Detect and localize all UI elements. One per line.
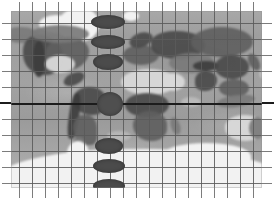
tick-left	[2, 183, 11, 184]
ellipse-marker[interactable]	[91, 35, 125, 49]
tick-top	[97, 2, 98, 11]
meridian-line	[175, 11, 176, 188]
ellipse-marker[interactable]	[95, 138, 123, 154]
tick-left	[2, 55, 11, 56]
parallel-line	[11, 167, 262, 168]
meridian-line	[188, 11, 189, 188]
tick-left	[2, 167, 11, 168]
parallel-line	[11, 55, 262, 56]
tick-bottom	[136, 188, 137, 198]
tick-right	[262, 87, 272, 88]
tick-left	[2, 23, 11, 24]
figure-root	[0, 0, 279, 205]
meridian-line	[240, 11, 241, 188]
tick-bottom	[162, 188, 163, 198]
tick-top	[110, 2, 111, 11]
meridian-line	[227, 11, 228, 188]
ellipse-marker[interactable]	[97, 92, 123, 116]
tick-bottom	[45, 188, 46, 198]
tick-top	[58, 2, 59, 11]
tick-bottom	[175, 188, 176, 198]
tick-bottom	[201, 188, 202, 198]
ellipse-marker[interactable]	[93, 159, 125, 173]
tick-top	[227, 2, 228, 11]
tick-right	[262, 135, 272, 136]
meridian-line	[19, 11, 20, 188]
tick-top	[214, 2, 215, 11]
tick-top	[123, 2, 124, 11]
ellipse-marker[interactable]	[93, 179, 125, 188]
graticule	[11, 11, 262, 188]
tick-top	[45, 2, 46, 11]
tick-right	[262, 167, 272, 168]
tick-left	[2, 135, 11, 136]
meridian-line	[214, 11, 215, 188]
tick-top	[162, 2, 163, 11]
tick-top	[240, 2, 241, 11]
tick-right	[262, 55, 272, 56]
meridian-line	[253, 11, 254, 188]
meridian-line	[71, 11, 72, 188]
meridian-line	[149, 11, 150, 188]
tick-bottom	[110, 188, 111, 198]
tick-bottom	[123, 188, 124, 198]
tick-top	[32, 2, 33, 11]
tick-bottom	[32, 188, 33, 198]
equator-line	[11, 103, 262, 105]
ellipse-marker[interactable]	[93, 54, 123, 70]
tick-bottom	[188, 188, 189, 198]
tick-bottom	[240, 188, 241, 198]
tick-bottom	[253, 188, 254, 198]
meridian-line	[84, 11, 85, 188]
parallel-line	[11, 87, 262, 88]
tick-top	[136, 2, 137, 11]
tick-bottom	[227, 188, 228, 198]
parallel-line	[11, 71, 262, 72]
equator-stub-right	[262, 102, 274, 104]
tick-bottom	[214, 188, 215, 198]
tick-right	[262, 151, 272, 152]
tick-top	[149, 2, 150, 11]
tick-right	[262, 119, 272, 120]
tick-right	[262, 71, 272, 72]
tick-right	[262, 23, 272, 24]
parallel-line	[11, 119, 262, 120]
tick-top	[84, 2, 85, 11]
tick-left	[2, 151, 11, 152]
tick-bottom	[19, 188, 20, 198]
parallel-line	[11, 183, 262, 184]
tick-bottom	[149, 188, 150, 198]
tick-top	[175, 2, 176, 11]
meridian-line	[45, 11, 46, 188]
tick-bottom	[58, 188, 59, 198]
meridian-line	[136, 11, 137, 188]
parallel-line	[11, 23, 262, 24]
tick-top	[19, 2, 20, 11]
equator-stub-left	[0, 102, 11, 104]
tick-top	[71, 2, 72, 11]
tick-right	[262, 183, 272, 184]
tick-left	[2, 87, 11, 88]
tick-right	[262, 39, 272, 40]
meridian-line	[123, 11, 124, 188]
tick-top	[201, 2, 202, 11]
parallel-line	[11, 135, 262, 136]
tick-top	[253, 2, 254, 11]
meridian-line	[162, 11, 163, 188]
tick-top	[188, 2, 189, 11]
ellipse-marker[interactable]	[91, 15, 125, 29]
tick-bottom	[71, 188, 72, 198]
tick-left	[2, 119, 11, 120]
tick-left	[2, 71, 11, 72]
tick-left	[2, 39, 11, 40]
tick-bottom	[84, 188, 85, 198]
meridian-line	[58, 11, 59, 188]
parallel-line	[11, 39, 262, 40]
meridian-line	[32, 11, 33, 188]
tick-bottom	[97, 188, 98, 198]
world-map[interactable]	[11, 11, 262, 188]
meridian-line	[201, 11, 202, 188]
parallel-line	[11, 151, 262, 152]
